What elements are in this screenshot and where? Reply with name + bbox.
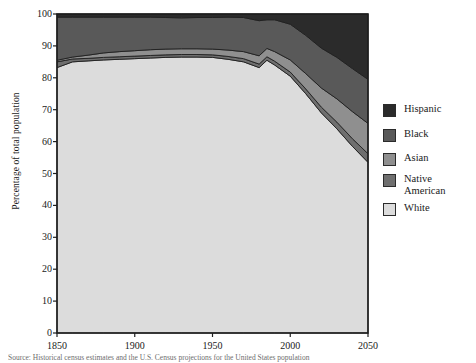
legend-label: White	[404, 202, 430, 214]
y-tick-70: 70	[18, 105, 52, 115]
y-tick-100: 100	[18, 9, 52, 19]
source-note: Source: Historical census estimates and …	[8, 353, 476, 362]
legend-swatch-icon	[383, 174, 396, 187]
legend-item-native-american[interactable]: Native American	[383, 173, 445, 196]
legend-item-black[interactable]: Black	[383, 128, 429, 142]
legend-item-asian[interactable]: Asian	[383, 152, 429, 166]
x-tick-1850: 1850	[27, 341, 87, 351]
x-tick-1950: 1950	[183, 341, 243, 351]
legend-swatch-icon	[383, 153, 396, 166]
legend-label: Black	[404, 128, 429, 140]
x-tick-2000: 2000	[260, 341, 320, 351]
y-tick-10: 10	[18, 296, 52, 306]
figure-container: Percentage of total population 100908070…	[0, 0, 476, 363]
y-tick-40: 40	[18, 200, 52, 210]
x-tick-2050: 2050	[338, 341, 398, 351]
y-tick-90: 90	[18, 41, 52, 51]
legend-item-hispanic[interactable]: Hispanic	[383, 103, 441, 117]
legend-swatch-icon	[383, 129, 396, 142]
legend-item-white[interactable]: White	[383, 202, 430, 216]
legend-swatch-icon	[383, 104, 396, 117]
y-axis-title: Percentage of total population	[11, 61, 21, 241]
legend-label: Hispanic	[404, 103, 441, 115]
legend-label: Native American	[404, 173, 445, 196]
y-tick-50: 50	[18, 169, 52, 179]
y-tick-0: 0	[18, 328, 52, 338]
x-tick-1900: 1900	[105, 341, 165, 351]
y-tick-80: 80	[18, 73, 52, 83]
area-series-group	[57, 14, 368, 333]
legend-swatch-icon	[383, 203, 396, 216]
legend-label: Asian	[404, 152, 429, 164]
y-tick-60: 60	[18, 137, 52, 147]
y-tick-20: 20	[18, 264, 52, 274]
y-tick-30: 30	[18, 232, 52, 242]
